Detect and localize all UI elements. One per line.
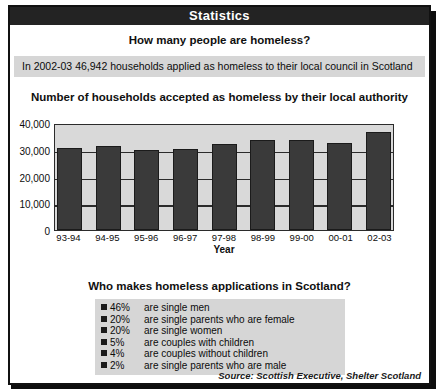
page-title: Statistics <box>10 7 429 25</box>
list-item-description: are single parents who are female <box>144 314 345 326</box>
chart-title: Number of households accepted as homeles… <box>10 91 429 103</box>
chart-y-axis: 010,00020,00030,00040,000 <box>10 124 54 231</box>
chart-y-tick-label: 20,000 <box>10 172 54 183</box>
chart-x-tick-label: 94-95 <box>95 232 120 243</box>
list-item-description: are couples without children <box>144 348 345 360</box>
chart-x-tick-label: 00-01 <box>328 232 353 243</box>
fact-statement: In 2002-03 46,942 households applied as … <box>14 56 425 77</box>
list-item-description: are single women <box>144 325 345 337</box>
list-item-percent: 5% <box>110 337 144 349</box>
chart-x-tick-label: 96-97 <box>173 232 198 243</box>
chart-y-tick-label: 10,000 <box>10 199 54 210</box>
chart-x-tick-label: 97-98 <box>212 232 237 243</box>
chart-x-tick-label: 98-99 <box>250 232 275 243</box>
list-item: 4%are couples without children <box>101 348 345 360</box>
list-item-description: are single men <box>144 302 345 314</box>
statistics-infographic: Statistics How many people are homeless?… <box>0 0 439 391</box>
list-item-percent: 4% <box>110 348 144 360</box>
chart-x-tick-label: 93-94 <box>56 232 81 243</box>
list-item: 46%are single men <box>101 302 345 314</box>
chart-bar <box>96 146 121 230</box>
panel-frame: Statistics How many people are homeless?… <box>8 5 431 385</box>
question-heading-2: Who makes homeless applications in Scotl… <box>10 280 429 292</box>
bar-chart: 010,00020,00030,00040,000 93-9494-9595-9… <box>10 111 429 257</box>
chart-x-axis-label: Year <box>54 244 394 255</box>
list-item: 20%are single parents who are female <box>101 314 345 326</box>
chart-y-tick-label: 40,000 <box>10 119 54 130</box>
list-item-percent: 20% <box>110 314 144 326</box>
chart-y-tick-label: 0 <box>10 226 54 237</box>
square-bullet-icon <box>101 350 107 356</box>
chart-x-tick-label: 02-03 <box>367 232 392 243</box>
chart-plot-area <box>54 124 394 231</box>
applications-breakdown-list: 46%are single men20%are single parents w… <box>95 299 345 375</box>
chart-x-axis: 93-9494-9595-9696-9797-9898-9999-0000-01… <box>54 232 394 243</box>
list-item-description: are couples with children <box>144 337 345 349</box>
chart-bar <box>289 140 314 230</box>
chart-bar <box>250 140 275 230</box>
square-bullet-icon <box>101 339 107 345</box>
list-item-percent: 20% <box>110 325 144 337</box>
chart-x-tick-label: 99-00 <box>289 232 314 243</box>
list-item: 20%are single women <box>101 325 345 337</box>
list-item: 5%are couples with children <box>101 337 345 349</box>
chart-bar <box>366 132 391 230</box>
chart-bar <box>57 148 82 230</box>
source-attribution: Source: Scottish Executive, Shelter Scot… <box>218 370 421 381</box>
chart-y-tick-label: 30,000 <box>10 145 54 156</box>
chart-bar <box>212 144 237 230</box>
square-bullet-icon <box>101 304 107 310</box>
chart-x-tick-label: 95-96 <box>134 232 159 243</box>
chart-bar <box>134 150 159 230</box>
chart-bar <box>327 143 352 230</box>
square-bullet-icon <box>101 362 107 368</box>
list-item-percent: 2% <box>110 360 144 372</box>
question-heading-1: How many people are homeless? <box>10 34 429 46</box>
chart-bars <box>55 125 393 230</box>
square-bullet-icon <box>101 316 107 322</box>
square-bullet-icon <box>101 327 107 333</box>
list-item-percent: 46% <box>110 302 144 314</box>
chart-bar <box>173 149 198 230</box>
